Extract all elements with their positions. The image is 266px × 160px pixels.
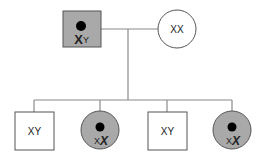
mother-unaffected-female: XX [158, 10, 196, 48]
father-affected-male: X Y [63, 11, 101, 47]
child-1-unaffected-male: XY [15, 112, 54, 150]
carrier-dot-icon [76, 21, 86, 31]
child-4-affected-female: X X [213, 111, 251, 149]
father-label-y: Y [83, 35, 89, 45]
child-3-unaffected-male: XY [148, 112, 187, 150]
carrier-dot-icon [228, 123, 237, 132]
child-4-label-big: X [231, 134, 241, 148]
child-3-label: XY [161, 126, 175, 137]
pedigree-diagram: X Y XX XY X X XY X X [0, 0, 266, 160]
carrier-dot-icon [96, 123, 105, 132]
father-label-x: X [74, 32, 83, 47]
child-1-label: XY [28, 126, 42, 137]
mother-label: XX [170, 24, 184, 35]
child-2-affected-female: X X [81, 111, 119, 149]
child-2-label-big: X [99, 134, 109, 148]
